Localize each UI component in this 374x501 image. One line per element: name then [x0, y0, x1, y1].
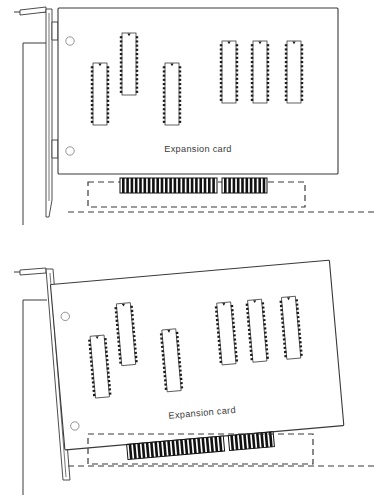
diagram-canvas: Expansion card: [0, 0, 374, 501]
chip-1-top: [91, 63, 109, 125]
chip-2-top: [120, 33, 138, 95]
edge-connector-top: [120, 178, 267, 193]
chip-5-top: [251, 41, 269, 103]
mounting-hole-upper-top: [66, 37, 74, 45]
chip-6-top: [285, 41, 303, 103]
mounting-hole-upper-bottom: [61, 312, 70, 321]
expansion-card-diagram: Expansion card: [0, 0, 374, 501]
card-label-top: Expansion card: [164, 144, 232, 154]
mounting-hole-lower-top: [66, 147, 74, 155]
mounting-hole-lower-bottom: [70, 421, 79, 430]
chip-3-top: [163, 63, 181, 125]
chip-4-top: [220, 41, 238, 103]
